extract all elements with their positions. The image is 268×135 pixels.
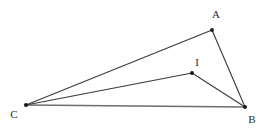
vertex-point-I — [190, 71, 194, 75]
segment-AB — [212, 30, 245, 107]
triangle-figure — [0, 0, 268, 135]
geometry-diagram: A B C I — [0, 0, 268, 135]
segment-IB — [192, 73, 245, 107]
vertex-label-i: I — [195, 57, 199, 68]
vertex-label-c: C — [10, 109, 17, 120]
vertex-point-B — [243, 105, 247, 109]
segment-CA — [26, 30, 212, 105]
vertex-point-C — [24, 103, 28, 107]
segment-CI — [26, 73, 192, 105]
vertex-label-b: B — [248, 114, 255, 125]
vertex-point-A — [210, 28, 214, 32]
segment-CB — [26, 105, 245, 107]
vertex-label-a: A — [212, 9, 220, 20]
